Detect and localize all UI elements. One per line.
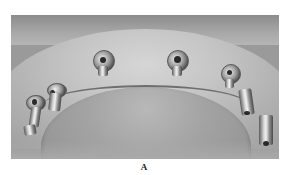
figure-caption: A: [0, 162, 288, 172]
figure: A: [0, 0, 288, 175]
implant-right-mesial: [220, 64, 242, 92]
lower-shadow: [11, 141, 279, 159]
implant-left-mesial: [44, 83, 68, 119]
implant-anterior-left: [91, 50, 115, 80]
implant-right-distal-2: [255, 115, 277, 155]
dental-implant-photo: [11, 15, 279, 159]
implant-anterior-right: [165, 50, 189, 80]
